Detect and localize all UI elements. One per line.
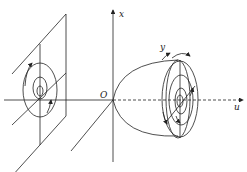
vortex-diagram: x O u y (0, 0, 247, 172)
oblique-axis (71, 100, 113, 151)
x-axis-label: x (119, 9, 124, 19)
u-axis-label: u (234, 102, 240, 112)
left-plane (12, 14, 66, 172)
rotation-arrow-icon (172, 53, 190, 58)
rotation-arrow-icon (163, 112, 167, 124)
rotation-arrow-icon (162, 53, 170, 60)
origin-label: O (100, 90, 108, 100)
right-body (113, 53, 198, 138)
rotation-arrow-icon (176, 116, 180, 123)
y-axis-label: y (159, 42, 166, 52)
